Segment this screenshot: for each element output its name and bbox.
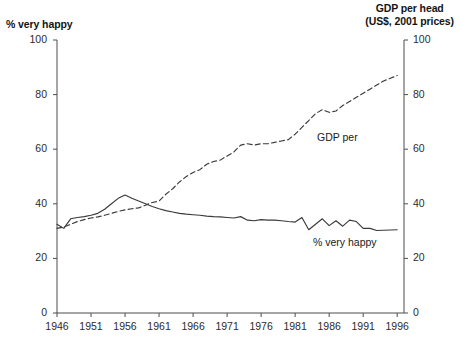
x-tick-label: 1986 (311, 320, 347, 332)
left-y-tick-label: 100 (21, 33, 47, 45)
x-tick-label: 1976 (243, 320, 279, 332)
x-tick-label: 1996 (379, 320, 415, 332)
series-group (57, 75, 397, 230)
series-line-gdp-per-head (57, 75, 397, 228)
right-y-tick-label: 0 (413, 306, 443, 318)
right-y-tick-label: 40 (413, 197, 443, 209)
x-tick-label: 1981 (277, 320, 313, 332)
right-y-tick-label: 100 (413, 33, 443, 45)
series-line-very-happy (57, 195, 397, 230)
left-y-tick-label: 0 (21, 306, 47, 318)
left-y-tick-label: 60 (21, 142, 47, 154)
right-axis-title: GDP per head (US$, 2001 prices) (365, 2, 454, 27)
axes-group (57, 40, 404, 313)
x-tick-label: 1956 (107, 320, 143, 332)
plot-area (0, 0, 460, 345)
right-y-tick-label: 80 (413, 88, 443, 100)
chart-figure: % very happy GDP per head (US$, 2001 pri… (0, 0, 460, 345)
x-tick-label: 1946 (39, 320, 75, 332)
x-tick-label: 1991 (345, 320, 381, 332)
right-y-tick-label: 60 (413, 142, 443, 154)
series-annotation-happy: % very happy (313, 236, 377, 248)
x-tick-label: 1961 (141, 320, 177, 332)
x-tick-label: 1951 (73, 320, 109, 332)
left-axis-title: % very happy (6, 18, 73, 30)
right-y-tick-label: 20 (413, 251, 443, 263)
right-axis-title-line1: GDP per head (365, 2, 454, 15)
left-y-tick-label: 20 (21, 251, 47, 263)
x-tick-label: 1966 (175, 320, 211, 332)
x-tick-label: 1971 (209, 320, 245, 332)
ticks-group (53, 40, 408, 317)
right-axis-title-line2: (US$, 2001 prices) (365, 15, 454, 28)
left-y-tick-label: 40 (21, 197, 47, 209)
left-y-tick-label: 80 (21, 88, 47, 100)
series-annotation-gdp: GDP per (317, 131, 358, 143)
